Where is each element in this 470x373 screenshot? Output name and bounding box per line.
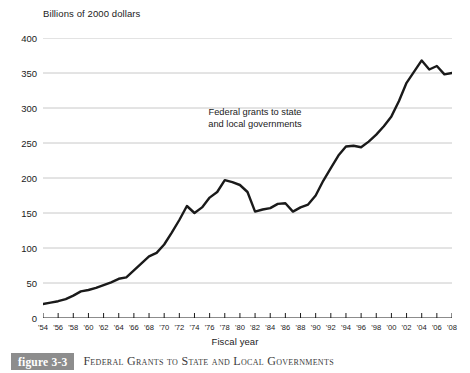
y-axis-tick-label: 100	[21, 243, 37, 254]
y-axis-title: Billions of 2000 dollars	[43, 8, 140, 19]
y-axis-tick-label: 300	[21, 103, 37, 114]
x-axis-tick-label: '02	[402, 323, 412, 332]
x-axis-tick-label: '86	[280, 323, 290, 332]
gridlines	[43, 38, 452, 283]
x-axis-ticks	[43, 313, 452, 318]
x-axis-tick-label: '08	[447, 323, 457, 332]
x-axis-tick-label: '58	[68, 323, 78, 332]
x-axis-tick-label: '64	[114, 323, 124, 332]
x-axis-tick-label: '00	[386, 323, 396, 332]
y-axis-tick-label: 150	[21, 208, 37, 219]
x-axis-tick-label: '90	[311, 323, 321, 332]
x-axis-tick-label: '92	[326, 323, 336, 332]
annotation-line-2: and local governments	[180, 118, 330, 130]
y-axis-tick-label: 250	[21, 138, 37, 149]
x-axis-tick-label: '68	[144, 323, 154, 332]
x-axis-tick-label: '70	[159, 323, 169, 332]
y-axis-tick-label: 400	[21, 33, 37, 44]
x-axis-tick-label: '66	[129, 323, 139, 332]
x-axis-tick-label: '82	[250, 323, 260, 332]
x-axis-tick-label: '94	[341, 323, 351, 332]
plot-area: 050100150200250300350400 '54'56'58'60'62…	[43, 38, 452, 318]
x-axis-tick-label: '98	[371, 323, 381, 332]
x-axis-tick-label: '06	[432, 323, 442, 332]
y-axis-tick-label: 50	[26, 278, 37, 289]
x-axis-tick-label: '72	[174, 323, 184, 332]
x-axis-tick-label: '76	[205, 323, 215, 332]
x-axis-tick-label: '96	[356, 323, 366, 332]
x-axis-tick-label: '78	[220, 323, 230, 332]
y-axis-tick-label: 0	[32, 313, 37, 324]
y-axis-tick-label: 350	[21, 68, 37, 79]
x-axis-title: Fiscal year	[0, 336, 470, 347]
x-axis-tick-label: '62	[99, 323, 109, 332]
chart-canvas	[43, 38, 452, 318]
x-axis-tick-label: '88	[296, 323, 306, 332]
annotation-line-1: Federal grants to state	[180, 106, 330, 118]
x-axis-tick-label: '84	[265, 323, 275, 332]
data-series-line	[43, 60, 452, 304]
figure-number-badge: figure 3-3	[11, 353, 74, 370]
figure-caption-bar: figure 3-3 Federal Grants to State and L…	[11, 353, 334, 370]
x-axis-tick-label: '54	[38, 323, 48, 332]
x-axis-tick-label: '04	[417, 323, 427, 332]
series-annotation: Federal grants to state and local govern…	[180, 106, 330, 131]
y-axis-tick-label: 200	[21, 173, 37, 184]
x-axis-tick-label: '74	[190, 323, 200, 332]
figure-container: Billions of 2000 dollars 050100150200250…	[0, 0, 470, 373]
x-axis-tick-label: '60	[83, 323, 93, 332]
x-axis-tick-label: '80	[235, 323, 245, 332]
figure-caption-text: Federal Grants to State and Local Govern…	[74, 353, 334, 370]
x-axis-tick-label: '56	[53, 323, 63, 332]
